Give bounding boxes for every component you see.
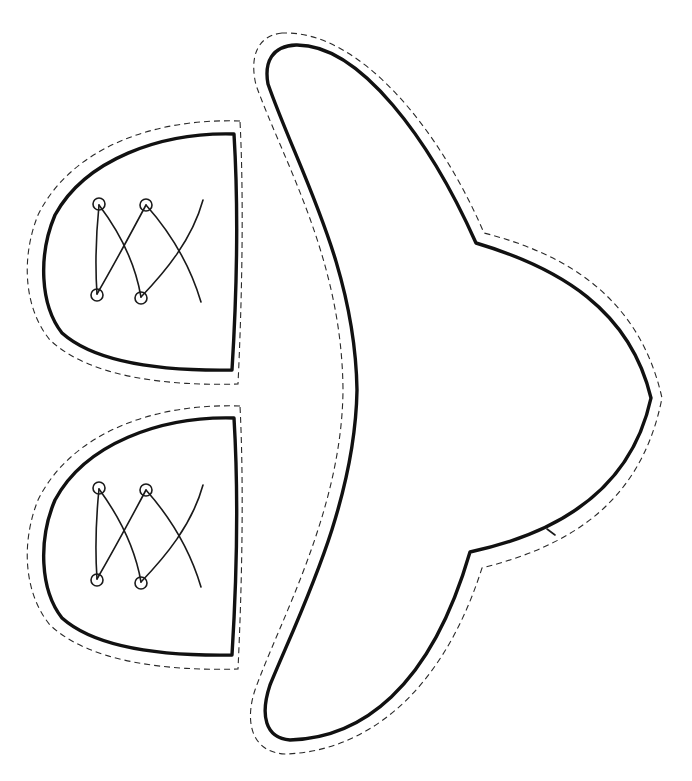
- outline-top-piece: [44, 134, 237, 370]
- tick-mark: [547, 529, 555, 535]
- shoe-toe-piece-top: [27, 121, 242, 384]
- template-drawing: [0, 0, 692, 781]
- outline-bottom-piece: [44, 418, 237, 655]
- shoe-sole-piece: [250, 33, 662, 754]
- template-canvas: Shoe craft cut-out template: [0, 0, 692, 781]
- outline-sole-piece: [265, 45, 651, 740]
- shoe-toe-piece-bottom: [27, 406, 242, 669]
